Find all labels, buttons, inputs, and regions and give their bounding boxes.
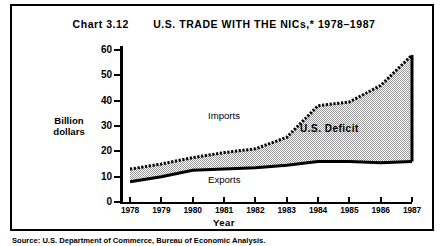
deficit-region-label: U.S. Deficit	[300, 123, 359, 134]
chart-screenshot: Chart 3.12 U.S. TRADE WITH THE NICs,* 19…	[0, 0, 448, 246]
exports-series-label: Exports	[208, 174, 241, 185]
series-layer	[130, 55, 412, 182]
imports-series-label: Imports	[208, 110, 240, 121]
chart-frame: Chart 3.12 U.S. TRADE WITH THE NICs,* 19…	[10, 4, 434, 231]
plot-area: 0102030405060 19781979198019811982198319…	[12, 6, 436, 233]
source-note: Source: U.S. Department of Commerce, Bur…	[12, 236, 265, 245]
